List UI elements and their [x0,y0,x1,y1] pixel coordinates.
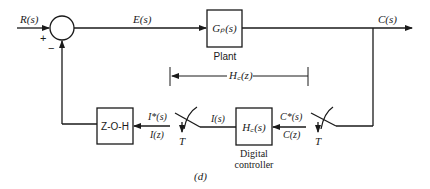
input-label: R(s) [20,14,38,25]
output-label: C(s) [378,14,397,25]
plus-sign: + [40,33,46,44]
diagram-caption: (d) [194,171,207,182]
bracket-label: H꜀(z) [229,70,253,81]
controller-caption-line1: Digital [232,148,276,159]
block-diagram: R(s) + − E(s) C(s) Gₚ(s) Plant H꜀(z) H꜀(… [0,0,430,189]
summing-junction [50,16,74,40]
left-sampler-blade [175,113,200,127]
right-sampler-arc [321,107,333,129]
sampled-output-z-label: C(z) [283,130,300,140]
zoh-label: Z-O-H [97,108,133,144]
controller-label: H꜀(s) [236,108,272,145]
plant-caption: Plant [209,51,241,62]
controller-output-label: I(s) [211,114,225,124]
zoh-input-label: I*(s) [148,112,167,122]
error-label: E(s) [133,14,151,25]
sampled-output-label: C*(s) [280,112,302,122]
right-sampler-label: T [315,136,321,147]
left-sampler-arc [184,107,197,129]
zoh-input-z-label: I(z) [150,130,164,140]
plant-label: Gₚ(s) [207,10,242,47]
controller-caption-line2: controller [228,159,280,170]
left-sampler-label: T [179,136,185,147]
minus-sign: − [48,43,54,54]
